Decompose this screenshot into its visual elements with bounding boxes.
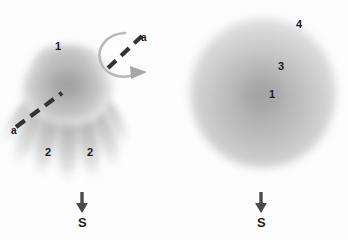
- rotation-curved-arrow-arc: [99, 33, 134, 77]
- feature-label-4: 4: [296, 19, 302, 30]
- right-panel-annotation-layer: [174, 0, 348, 240]
- sun-direction-label: S: [78, 216, 87, 229]
- sun-direction-arrow: [255, 192, 267, 213]
- rotation-axis-dashed-line-lower: [16, 93, 62, 127]
- right-panel: 4 3 1 S: [174, 0, 348, 240]
- feature-label-2-right: 2: [87, 147, 93, 158]
- sun-direction-label: S: [257, 216, 266, 229]
- feature-label-2-left: 2: [45, 147, 51, 158]
- feature-label-3: 3: [278, 61, 284, 72]
- rotation-axis-dashed-line-upper: [108, 36, 142, 68]
- left-panel-annotation-layer: [0, 0, 174, 240]
- rotation-curved-arrowhead: [130, 66, 147, 79]
- feature-label-1: 1: [55, 41, 61, 52]
- feature-label-1: 1: [269, 89, 275, 100]
- sun-direction-arrow: [76, 192, 88, 213]
- rotation-axis-label-lower: a: [11, 126, 17, 136]
- left-panel: 1 2 2 a a S: [0, 0, 174, 240]
- figure-canvas: 1 2 2 a a S 4 3 1 S: [0, 0, 348, 240]
- rotation-axis-label-upper: a: [141, 33, 147, 43]
